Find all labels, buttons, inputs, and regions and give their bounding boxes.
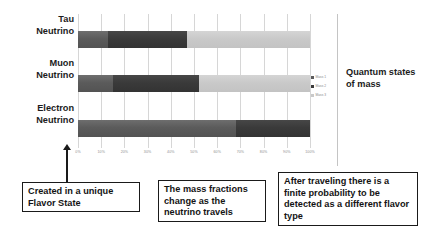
x-tick-label: 90%: [283, 150, 291, 154]
bar-row: [78, 75, 310, 92]
legend-label: Mass 2: [316, 84, 327, 88]
category-label-line2: Neutrino: [36, 70, 74, 80]
category-label-line2: Neutrino: [36, 26, 74, 36]
bar-segment-mass-3: [199, 75, 310, 92]
bar-segment-mass-1: [78, 75, 113, 92]
x-tick-label: 80%: [260, 150, 268, 154]
legend-item-mass-3: Mass 3: [311, 91, 337, 99]
chart-legend: Mass 1 Mass 2 Mass 3: [311, 73, 337, 100]
legend-label: Mass 1: [316, 75, 327, 79]
legend-item-mass-1: Mass 1: [311, 73, 337, 81]
plot-area: [78, 14, 310, 148]
category-label-electron-neutrino: Electron Neutrino: [36, 103, 74, 126]
x-tick-label: 40%: [167, 150, 175, 154]
bar-segment-mass-2: [236, 120, 310, 137]
category-label-tau-neutrino: Tau Neutrino: [36, 14, 74, 37]
slide-canvas: Tau Neutrino Muon Neutrino Electron Neut…: [0, 0, 427, 244]
bar-segment-mass-3: [187, 31, 310, 48]
x-tick-label: 60%: [213, 150, 221, 154]
bar-segment-mass-1: [78, 120, 236, 137]
x-tick-label: 70%: [237, 150, 245, 154]
legend-swatch-icon: [311, 94, 314, 97]
bar-segment-mass-2: [108, 31, 187, 48]
callout-mass-fractions: The mass fractions change as the neutrin…: [158, 180, 266, 222]
up-arrow-icon: [66, 149, 68, 182]
vertical-divider: [337, 14, 338, 166]
stacked-bar-chart: 0%10%20%30%40%50%60%70%80%90%100%: [78, 14, 310, 164]
legend-label: Mass 3: [316, 93, 327, 97]
legend-item-mass-2: Mass 2: [311, 82, 337, 90]
bar-row: [78, 31, 310, 48]
x-axis-tick-labels: 0%10%20%30%40%50%60%70%80%90%100%: [78, 150, 310, 162]
category-label-muon-neutrino: Muon Neutrino: [36, 58, 74, 81]
x-tick-label: 50%: [190, 150, 198, 154]
category-label-line1: Muon: [50, 58, 75, 68]
legend-swatch-icon: [311, 85, 314, 88]
bar-segment-mass-2: [113, 75, 199, 92]
quantum-states-caption: Quantum states of mass: [346, 66, 424, 90]
category-label-line2: Neutrino: [36, 115, 74, 125]
legend-swatch-icon: [311, 76, 314, 79]
category-label-line1: Tau: [58, 14, 74, 24]
x-tick-label: 30%: [144, 150, 152, 154]
category-label-line1: Electron: [37, 103, 74, 113]
callout-detection-probability: After traveling there is a finite probab…: [278, 172, 418, 226]
category-label-group: Tau Neutrino Muon Neutrino Electron Neut…: [0, 14, 74, 164]
callout-flavor-state: Created in a unique Flavor State: [22, 182, 140, 212]
x-tick-label: 0%: [75, 150, 80, 154]
bar-segment-mass-1: [78, 31, 108, 48]
x-tick-label: 100%: [305, 150, 315, 154]
x-tick-label: 20%: [121, 150, 129, 154]
bar-row: [78, 120, 310, 137]
x-tick-label: 10%: [97, 150, 105, 154]
